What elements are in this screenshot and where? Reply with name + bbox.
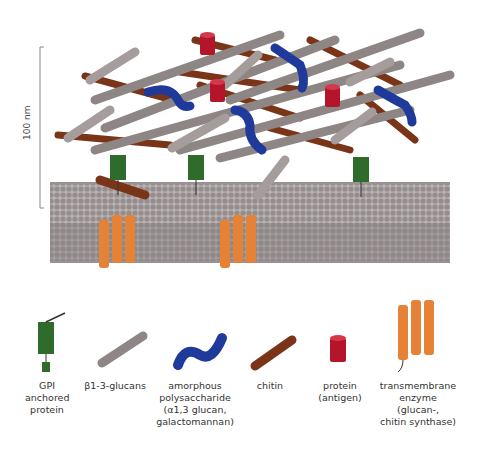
legend-label-gpi: GPI anchored protein xyxy=(25,380,69,416)
legend-label-amorphous: amorphous polysaccharide (α1,3 glucan, g… xyxy=(155,380,235,428)
scale-bar xyxy=(40,47,44,208)
legend-icons xyxy=(38,300,434,372)
legend-label-protein: protein (antigen) xyxy=(315,380,365,404)
legend-protein-icon xyxy=(330,335,346,362)
scale-bar-label: 100 nm xyxy=(22,105,32,140)
legend-chitin-icon xyxy=(255,340,292,366)
legend-label-chitin: chitin xyxy=(250,380,290,392)
legend-glucan-icon xyxy=(102,336,143,363)
legend-gpi-icon xyxy=(38,313,65,372)
legend-label-enzyme: transmembrane enzyme (glucan-, chitin sy… xyxy=(378,380,458,428)
legend-label-glucan: β1-3-glucans xyxy=(80,380,150,392)
legend-enzyme-icon xyxy=(398,300,434,372)
legend-amorphous-icon xyxy=(178,338,222,365)
